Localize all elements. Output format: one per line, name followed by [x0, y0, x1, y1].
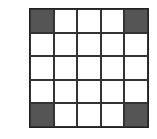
grid-cell [30, 80, 54, 104]
grid-cell [54, 9, 78, 33]
grid-cell [101, 80, 125, 104]
grid-cell [101, 9, 125, 33]
grid-cell [54, 56, 78, 80]
grid-cell-filled [30, 9, 54, 33]
grid-cell [54, 33, 78, 57]
grid-diagram [29, 8, 149, 128]
grid-cell-filled [30, 103, 54, 127]
grid-cell [124, 33, 148, 57]
grid-cell [124, 80, 148, 104]
grid-cell [77, 56, 101, 80]
grid-cell [77, 80, 101, 104]
grid-cell [30, 56, 54, 80]
grid-cell [77, 33, 101, 57]
grid-cell [77, 103, 101, 127]
grid-cell [54, 103, 78, 127]
grid-cell [54, 80, 78, 104]
grid-cell [101, 56, 125, 80]
grid-cell-filled [124, 9, 148, 33]
grid-cell [101, 103, 125, 127]
grid-cell [124, 56, 148, 80]
grid-cell [77, 9, 101, 33]
grid-cell [101, 33, 125, 57]
grid-cell-filled [124, 103, 148, 127]
grid-cell [30, 33, 54, 57]
